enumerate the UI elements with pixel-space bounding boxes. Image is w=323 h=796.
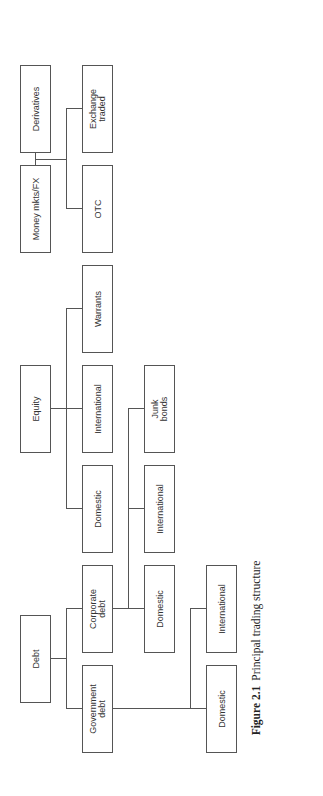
connector — [190, 608, 206, 609]
node-label: Domestic — [93, 466, 102, 552]
node-label: International — [217, 566, 226, 652]
node-label: Government debt — [89, 666, 107, 752]
node-label: International — [155, 466, 164, 552]
connector — [128, 408, 144, 409]
connector — [66, 308, 67, 509]
node-label: Debt — [31, 616, 40, 702]
node-corporate-domestic: Domestic — [144, 565, 175, 653]
node-government-domestic: Domestic — [206, 665, 237, 753]
node-label: Money mkts/FX — [31, 166, 40, 252]
node-warrants: Warrants — [82, 265, 113, 353]
connector — [66, 708, 82, 709]
node-derivatives: Derivatives — [20, 65, 51, 153]
figure-caption: Figure 2.1Principal trading structure — [250, 561, 262, 736]
node-equity-international: International — [82, 365, 113, 453]
node-label: OTC — [93, 166, 102, 252]
node-label: Domestic — [155, 566, 164, 652]
node-corporate-debt: Corporate debt — [82, 565, 113, 653]
connector — [66, 108, 82, 109]
connector — [35, 159, 67, 160]
node-exchange-traded: Exchange traded — [82, 65, 113, 153]
node-label: Exchange traded — [89, 66, 107, 152]
connector — [66, 308, 82, 309]
node-label: International — [93, 366, 102, 452]
node-label: Corporate debt — [89, 566, 107, 652]
connector — [128, 508, 144, 509]
node-government-debt: Government debt — [82, 665, 113, 753]
node-equity: Equity — [20, 365, 51, 453]
node-label: Junk bonds — [151, 366, 169, 452]
node-junk-bonds: Junk bonds — [144, 365, 175, 453]
figure-number: Figure 2.1 — [250, 686, 262, 736]
connector — [51, 658, 66, 659]
node-corporate-international: International — [144, 465, 175, 553]
node-otc: OTC — [82, 165, 113, 253]
connector — [66, 108, 67, 209]
node-label: Equity — [31, 366, 40, 452]
connector — [190, 608, 191, 709]
connector — [66, 208, 82, 209]
figure-title: Principal trading structure — [250, 561, 262, 681]
connector — [66, 608, 67, 709]
node-equity-domestic: Domestic — [82, 465, 113, 553]
node-government-international: International — [206, 565, 237, 653]
connector — [66, 508, 82, 509]
connector — [66, 608, 82, 609]
node-debt: Debt — [20, 615, 51, 703]
connector — [113, 708, 206, 709]
node-label: Derivatives — [31, 66, 40, 152]
node-label: Warrants — [93, 266, 102, 352]
node-money-markets-fx: Money mkts/FX — [20, 165, 51, 253]
node-label: Domestic — [217, 666, 226, 752]
